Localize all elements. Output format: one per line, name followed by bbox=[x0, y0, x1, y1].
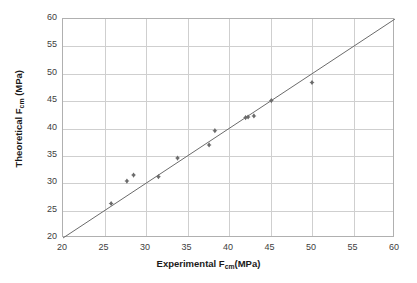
scatter-marker bbox=[251, 113, 256, 118]
x-axis-label: Experimental Fcm(MPa) bbox=[0, 258, 417, 270]
y-tick-label: 45 bbox=[47, 94, 57, 104]
x-tick-label: 60 bbox=[379, 242, 409, 252]
x-tick-label: 55 bbox=[338, 242, 368, 252]
scatter-marker bbox=[175, 155, 180, 160]
y-tick-label: 50 bbox=[47, 67, 57, 77]
scatter-marker bbox=[124, 178, 129, 183]
scatter-marker bbox=[156, 174, 161, 179]
plot-area bbox=[62, 18, 394, 237]
y-tick-label: 55 bbox=[47, 39, 57, 49]
y-tick-label: 25 bbox=[47, 204, 57, 214]
x-tick-label: 35 bbox=[172, 242, 202, 252]
scatter-marker bbox=[212, 128, 217, 133]
scatter-marker bbox=[269, 98, 274, 103]
chart-figure: 202530354045505560 202530354045505560 Ex… bbox=[0, 0, 417, 283]
y-tick-label: 20 bbox=[47, 231, 57, 241]
x-tick-label: 45 bbox=[255, 242, 285, 252]
equality-line bbox=[63, 19, 395, 238]
x-tick-label: 25 bbox=[89, 242, 119, 252]
y-tick-label: 35 bbox=[47, 149, 57, 159]
x-tick-label: 40 bbox=[213, 242, 243, 252]
plot-canvas bbox=[63, 19, 395, 238]
x-tick-label: 30 bbox=[130, 242, 160, 252]
x-tick-label: 50 bbox=[296, 242, 326, 252]
x-tick-label: 20 bbox=[47, 242, 77, 252]
scatter-marker bbox=[131, 172, 136, 177]
y-tick-label: 60 bbox=[47, 12, 57, 22]
y-tick-label: 30 bbox=[47, 176, 57, 186]
y-tick-label: 40 bbox=[47, 122, 57, 132]
scatter-marker bbox=[309, 80, 314, 85]
y-axis-label: Theoretical Fcm (MPa) bbox=[13, 24, 25, 214]
equality-line-path bbox=[63, 19, 395, 238]
